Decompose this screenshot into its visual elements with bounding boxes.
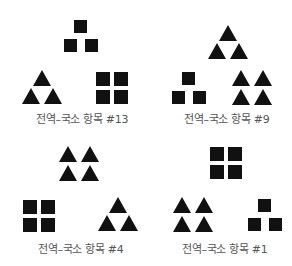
triangle-icon — [33, 70, 51, 86]
triangle-icon — [98, 215, 116, 231]
triangle-icon — [254, 89, 272, 105]
cluster-triangle-triangle — [98, 197, 138, 232]
triangle-icon — [173, 197, 191, 213]
triangle-icon — [232, 89, 250, 105]
triangle-icon — [120, 215, 138, 231]
triangle-icon — [254, 70, 272, 86]
square-icon — [258, 199, 271, 212]
square-icon — [96, 72, 110, 86]
square-icon — [64, 39, 77, 52]
cluster-square-2x2 — [210, 147, 242, 179]
triangle-icon — [81, 146, 99, 162]
square-icon — [23, 200, 37, 214]
panel-label: 전역–국소 항목 #1 — [182, 240, 267, 256]
triangle-icon — [208, 43, 226, 59]
square-icon — [182, 72, 195, 85]
cluster-square-2x2 — [23, 200, 55, 232]
square-icon — [210, 165, 224, 179]
square-icon — [74, 20, 87, 33]
panel-item-13: 전역–국소 항목 #13 — [0, 0, 146, 133]
square-icon — [172, 91, 185, 104]
triangle-icon — [173, 216, 191, 232]
panel-item-1: 전역–국소 항목 #1 — [146, 133, 292, 266]
cluster-triangle-2x2 — [173, 197, 215, 232]
panel-item-9: 전역–국소 항목 #9 — [146, 0, 292, 133]
square-icon — [248, 218, 261, 231]
cluster-square-triangle — [172, 72, 206, 104]
triangle-icon — [109, 197, 127, 213]
cluster-square-triangle — [64, 20, 98, 52]
square-icon — [114, 90, 128, 104]
square-icon — [210, 147, 224, 161]
triangle-icon — [195, 216, 213, 232]
cluster-triangle-triangle — [208, 25, 248, 60]
cluster-square-triangle — [248, 199, 282, 231]
panel-item-4: 전역–국소 항목 #4 — [0, 133, 146, 266]
triangle-icon — [59, 146, 77, 162]
triangle-icon — [195, 197, 213, 213]
triangle-icon — [59, 165, 77, 181]
square-icon — [41, 200, 55, 214]
triangle-icon — [44, 88, 62, 104]
square-icon — [41, 218, 55, 232]
panel-label: 전역–국소 항목 #4 — [38, 240, 123, 256]
square-icon — [193, 91, 206, 104]
cluster-triangle-2x2 — [232, 70, 274, 105]
square-icon — [96, 90, 110, 104]
square-icon — [23, 218, 37, 232]
square-icon — [269, 218, 282, 231]
triangle-icon — [232, 70, 250, 86]
triangle-icon — [219, 25, 237, 41]
square-icon — [85, 39, 98, 52]
square-icon — [228, 165, 242, 179]
triangle-icon — [22, 88, 40, 104]
square-icon — [228, 147, 242, 161]
panel-label: 전역–국소 항목 #13 — [36, 110, 128, 126]
cluster-triangle-triangle — [22, 70, 62, 105]
triangle-icon — [81, 165, 99, 181]
square-icon — [114, 72, 128, 86]
triangle-icon — [230, 43, 248, 59]
cluster-triangle-2x2 — [59, 146, 101, 181]
panel-label: 전역–국소 항목 #9 — [184, 110, 269, 126]
cluster-square-2x2 — [96, 72, 128, 104]
